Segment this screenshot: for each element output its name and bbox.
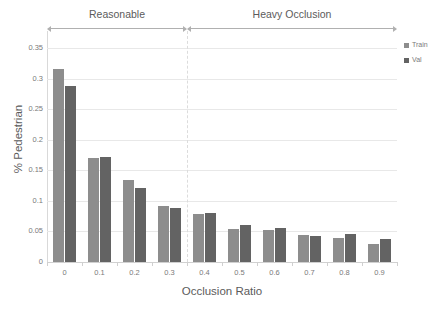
y-tick-label: 0.3 <box>5 75 43 83</box>
group-annotation: Reasonable <box>47 8 187 34</box>
arrow-line <box>190 28 394 29</box>
x-tick-mark <box>362 262 363 266</box>
x-tick-label: 0.3 <box>164 268 174 277</box>
x-tick-mark <box>117 262 118 266</box>
bar-val-0.7 <box>310 236 321 262</box>
y-tick-label: 0.2 <box>5 136 43 144</box>
legend-item-val[interactable]: Val <box>404 56 447 64</box>
x-tick-label: 0.2 <box>129 268 139 277</box>
bar-val-0.5 <box>240 225 251 262</box>
bar-train-0.9 <box>368 244 379 262</box>
x-tick-label: 0.4 <box>199 268 209 277</box>
x-tick-mark <box>152 262 153 266</box>
bar-train-0.1 <box>88 158 99 262</box>
x-tick-label: 0.6 <box>269 268 279 277</box>
x-tick-label: 0.9 <box>374 268 384 277</box>
y-tick-label: 0.25 <box>5 105 43 113</box>
plot-area <box>47 48 397 262</box>
y-tick-label: 0.05 <box>5 227 43 235</box>
grid-line <box>47 48 397 49</box>
y-tick-label: 0 <box>5 258 43 266</box>
grid-line <box>47 140 397 141</box>
legend-swatch-icon <box>404 43 409 48</box>
y-axis-title: % Pedestrian <box>12 79 24 199</box>
x-tick-mark <box>397 262 398 266</box>
bar-val-0.4 <box>205 213 216 262</box>
group-annotation-arrow <box>47 25 187 32</box>
y-tick-label: 0.15 <box>5 166 43 174</box>
y-tick-label: 0.1 <box>5 197 43 205</box>
x-tick-mark <box>222 262 223 266</box>
x-tick-mark <box>257 262 258 266</box>
bar-train-0.3 <box>158 206 169 262</box>
bar-val-0.2 <box>135 188 146 262</box>
x-axis-title: Occlusion Ratio <box>47 285 397 297</box>
legend-label: Train <box>412 41 428 49</box>
bar-train-0.6 <box>263 230 274 262</box>
group-annotation-arrow <box>187 25 397 32</box>
x-tick-mark <box>292 262 293 266</box>
bar-train-0.8 <box>333 238 344 262</box>
bar-train-0.2 <box>123 180 134 262</box>
legend-label: Val <box>412 56 422 64</box>
x-tick-label: 0.8 <box>339 268 349 277</box>
bar-val-0.9 <box>380 239 391 262</box>
bar-val-0.6 <box>275 228 286 262</box>
legend-item-train[interactable]: Train <box>404 41 447 49</box>
group-annotation: Heavy Occlusion <box>187 8 397 34</box>
x-tick-label: 0.5 <box>234 268 244 277</box>
bar-train-0.4 <box>193 214 204 262</box>
bar-val-0.3 <box>170 208 181 262</box>
x-tick-label: 0 <box>62 268 66 277</box>
bar-train-0 <box>53 69 64 262</box>
bar-val-0.1 <box>100 157 111 262</box>
group-annotation-label: Reasonable <box>47 8 187 20</box>
x-tick-mark <box>47 262 48 266</box>
chart-legend: TrainVal <box>404 41 447 71</box>
bar-val-0 <box>65 86 76 262</box>
bar-train-0.7 <box>298 235 309 263</box>
x-tick-label: 0.7 <box>304 268 314 277</box>
x-tick-mark <box>82 262 83 266</box>
bar-val-0.8 <box>345 234 356 262</box>
x-tick-mark <box>327 262 328 266</box>
legend-swatch-icon <box>404 58 409 63</box>
x-tick-label: 0.1 <box>94 268 104 277</box>
bar-train-0.5 <box>228 229 239 262</box>
bar-chart: ReasonableHeavy Occlusion 00.050.10.150.… <box>0 0 447 312</box>
category-divider <box>187 31 188 262</box>
grid-line <box>47 109 397 110</box>
grid-line <box>47 79 397 80</box>
arrow-line <box>50 28 184 29</box>
y-tick-label: 0.35 <box>5 44 43 52</box>
arrow-right-cap-icon <box>393 26 397 32</box>
group-annotation-label: Heavy Occlusion <box>187 8 397 20</box>
x-tick-mark <box>187 262 188 266</box>
